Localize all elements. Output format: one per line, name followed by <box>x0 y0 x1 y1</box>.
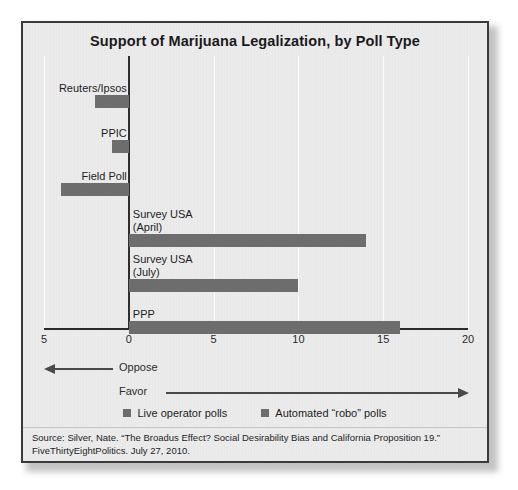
x-tick-label: 15 <box>377 333 389 345</box>
bar <box>95 95 129 108</box>
gridline <box>468 56 469 328</box>
bar-label-line: PPP <box>133 308 155 321</box>
gridline <box>298 56 299 328</box>
chart-screenshot: Support of Marijuana Legalization, by Po… <box>0 0 518 490</box>
legend-item-live-operator: Live operator polls <box>123 407 227 419</box>
bar <box>129 321 400 334</box>
gridline <box>383 56 384 328</box>
x-tick-label: 5 <box>211 333 217 345</box>
oppose-arrow-line <box>55 368 113 370</box>
favor-arrow-icon <box>458 388 469 398</box>
bar-label-line: (April) <box>133 221 193 234</box>
source-line-1: Source: Silver, Nate. “The Broadus Effec… <box>32 432 472 445</box>
legend-item-automated-robo: Automated “robo” polls <box>261 407 386 419</box>
legend-label: Automated “robo” polls <box>275 407 386 419</box>
bar-category-label: Survey USA(July) <box>133 253 193 278</box>
bar <box>112 140 129 153</box>
bar <box>129 279 299 292</box>
oppose-arrow-icon <box>44 364 55 374</box>
favor-label: Favor <box>119 385 147 397</box>
oppose-label: Oppose <box>119 361 158 373</box>
x-tick-label: 20 <box>462 333 474 345</box>
bar-category-label: PPIC <box>101 127 127 140</box>
legend-swatch-icon <box>261 409 269 417</box>
bar <box>129 234 366 247</box>
source-divider <box>23 427 487 428</box>
legend-swatch-icon <box>123 409 131 417</box>
bar-label-line: (July) <box>133 266 193 279</box>
bar-label-line: Reuters/Ipsos <box>59 82 127 95</box>
x-tick-label: 5 <box>41 333 47 345</box>
legend-label: Live operator polls <box>137 407 227 419</box>
source-note: Source: Silver, Nate. “The Broadus Effec… <box>32 432 472 457</box>
bar <box>61 183 129 196</box>
bar-category-label: Survey USA(April) <box>133 208 193 233</box>
source-line-2: FiveThirtyEightPolitics. July 27, 2010. <box>32 445 472 458</box>
plot-area: 505101520Reuters/IpsosPPICField PollSurv… <box>23 56 487 346</box>
x-tick-label: 10 <box>292 333 304 345</box>
chart-title: Support of Marijuana Legalization, by Po… <box>23 33 487 49</box>
gridline <box>44 56 45 328</box>
bar-label-line: Survey USA <box>133 208 193 221</box>
bar-category-label: PPP <box>133 308 155 321</box>
bar-label-line: Field Poll <box>82 170 127 183</box>
favor-direction-row: Favor <box>23 386 487 400</box>
chart-figure: Support of Marijuana Legalization, by Po… <box>21 21 489 463</box>
chart-legend: Live operator polls Automated “robo” pol… <box>23 407 487 419</box>
bar-label-line: PPIC <box>101 127 127 140</box>
bar-category-label: Field Poll <box>82 170 127 183</box>
oppose-direction-row: Oppose <box>23 362 487 376</box>
bar-label-line: Survey USA <box>133 253 193 266</box>
bar-category-label: Reuters/Ipsos <box>59 82 127 95</box>
favor-arrow-line <box>166 392 458 394</box>
x-tick-label: 0 <box>126 333 132 345</box>
